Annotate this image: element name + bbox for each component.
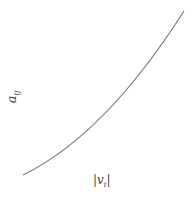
y-axis-label: aij [4, 90, 22, 103]
convex-curve [23, 11, 184, 175]
curve-plot [0, 0, 195, 197]
x-axis-label: |vi| [93, 173, 110, 189]
